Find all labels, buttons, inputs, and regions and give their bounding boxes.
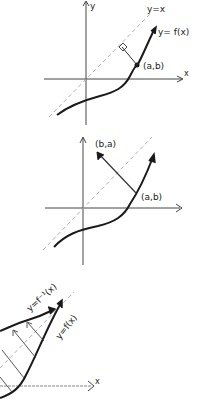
point-label: (a,b): [141, 192, 162, 202]
curve-f: [54, 157, 153, 247]
diagonal-label: y=x: [147, 4, 166, 14]
reflected-point-label: (b,a): [95, 139, 116, 149]
curve-f: [0, 303, 61, 398]
curve-label: y= f(x): [158, 27, 189, 37]
curve-f-inverse: [0, 310, 53, 331]
curve-f: [57, 28, 155, 115]
reflection-arrow: [0, 377, 12, 392]
reflection-arrow: [99, 154, 136, 193]
x-axis-label: x: [95, 377, 100, 386]
reflection-arrow: [2, 350, 24, 378]
y-axis-label: y: [90, 1, 96, 11]
point-label: (a,b): [143, 61, 164, 71]
reflection-arrow: [14, 331, 36, 358]
curve-arrow-icon: [149, 154, 155, 163]
diagram-inverse-function: y=f⁻¹(x) y=f(x) x: [0, 270, 210, 410]
panel-inverse-function: y=f⁻¹(x) y=f(x) x: [0, 270, 210, 410]
panel-function-point: y x y=x y= f(x) (a,b): [0, 0, 210, 130]
x-axis-label: x: [184, 69, 189, 78]
curve-label: y=f(x): [54, 313, 79, 342]
diagram-function-point: y x y=x y= f(x) (a,b): [0, 0, 210, 130]
panel-reflection: (b,a) (a,b): [0, 130, 210, 270]
diagram-reflection: (b,a) (a,b): [0, 130, 210, 270]
